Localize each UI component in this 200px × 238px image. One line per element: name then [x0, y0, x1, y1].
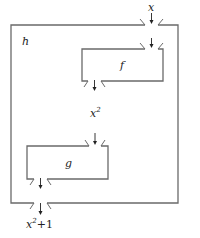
output-rest: +1: [37, 218, 53, 231]
inner-box-f: f: [82, 38, 163, 91]
svg-text:x2: x2: [90, 106, 101, 120]
inner-box-f-label: f: [119, 59, 126, 72]
input-port-h: x: [140, 1, 163, 25]
svg-text:x2+1: x2+1: [26, 217, 53, 231]
intermediate-exp: 2: [95, 106, 101, 114]
inner-box-g: g: [27, 133, 108, 189]
intermediate-label: x2: [90, 106, 101, 120]
input-label: x: [148, 1, 155, 14]
function-composition-diagram: h x f x2 g: [0, 0, 200, 238]
output-port-h: x2+1: [26, 203, 53, 231]
inner-box-g-label: g: [65, 157, 72, 170]
outer-box-label: h: [22, 35, 29, 48]
